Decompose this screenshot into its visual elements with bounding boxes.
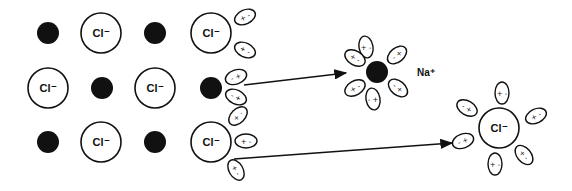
svg-text:- +: - + — [368, 96, 379, 104]
sodium-ion — [144, 22, 166, 44]
dissolution-diagram: Cl⁻ Cl⁻ Cl⁻ Cl⁻ Cl⁻ Cl⁻ + - — [0, 0, 572, 191]
water-molecule: - + — [364, 87, 382, 111]
water-molecule: + - — [495, 82, 509, 104]
sodium-ion — [144, 131, 166, 153]
water-molecule: + - — [488, 153, 502, 175]
hydrated-chloride-ion: Cl⁻ + - - + + - - + + - + - — [450, 82, 549, 175]
arrow-to-hydrated-sodium — [244, 73, 346, 85]
sodium-ion-edge — [200, 77, 222, 99]
diagram-canvas: Cl⁻ Cl⁻ Cl⁻ Cl⁻ Cl⁻ Cl⁻ + - — [0, 0, 572, 191]
water-molecule: - + — [223, 67, 248, 88]
chloride-ion: Cl⁻ — [191, 13, 231, 53]
water-molecule: - + — [385, 76, 411, 101]
lattice: Cl⁻ Cl⁻ Cl⁻ Cl⁻ Cl⁻ Cl⁻ — [28, 13, 231, 162]
water-molecule: + - — [232, 6, 258, 28]
svg-text:Cl⁻: Cl⁻ — [491, 122, 508, 134]
water-molecule: - + — [384, 43, 410, 68]
chloride-ion: Cl⁻ — [135, 68, 175, 108]
svg-text:Cl⁻: Cl⁻ — [147, 82, 164, 94]
sodium-ion — [37, 22, 59, 44]
svg-text:Cl⁻: Cl⁻ — [40, 82, 57, 94]
chloride-ion: Cl⁻ — [81, 122, 121, 162]
water-molecule: - + — [450, 131, 475, 152]
chloride-ion: Cl⁻ — [81, 13, 121, 53]
svg-text:Cl⁻: Cl⁻ — [203, 27, 220, 39]
sodium-label: Na⁺ — [417, 67, 435, 78]
water-molecule: + - — [232, 39, 258, 61]
chloride-ion-edge: Cl⁻ — [191, 122, 231, 162]
water-molecule: + - — [224, 157, 247, 183]
svg-text:+ -: + - — [361, 44, 372, 52]
arrow-to-hydrated-chloride — [234, 143, 452, 159]
water-molecule: + - — [342, 76, 368, 99]
svg-text:+ -: + - — [490, 161, 501, 169]
sodium-ion — [91, 77, 113, 99]
water-molecule: - + — [223, 86, 249, 108]
svg-text:+ -: + - — [497, 90, 508, 98]
water-molecule: + - — [512, 142, 537, 168]
svg-text:Cl⁻: Cl⁻ — [93, 136, 110, 148]
svg-text:+ -: + - — [241, 138, 252, 146]
hydrated-sodium-ion: + - + - - + + - - + - + Na⁺ — [342, 35, 435, 111]
svg-text:Cl⁻: Cl⁻ — [93, 27, 110, 39]
water-molecule: + - — [523, 105, 549, 127]
sodium-ion — [37, 131, 59, 153]
chloride-ion: Cl⁻ — [28, 68, 68, 108]
water-molecule: + - — [235, 134, 257, 148]
svg-text:Cl⁻: Cl⁻ — [203, 136, 220, 148]
water-molecule: + - — [225, 103, 250, 128]
water-molecule: - + — [454, 96, 480, 119]
